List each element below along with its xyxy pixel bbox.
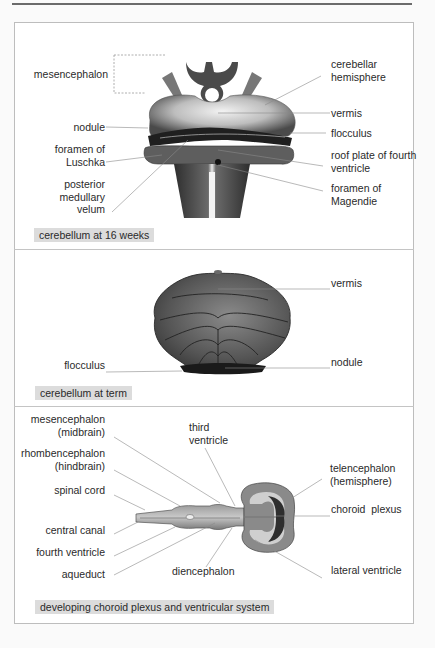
label-nodule-term: nodule — [331, 356, 363, 369]
label-flocculus-term: flocculus — [30, 359, 105, 372]
caption-choroid-plexus-ventricular-system: developing choroid plexus and ventricula… — [35, 600, 274, 614]
cerebellum-16-weeks-illustration — [114, 55, 295, 218]
label-foramen-of-luschka: foramen of Luschka — [30, 143, 105, 168]
label-roof-plate-fourth-ventricle: roof plate of fourth ventricle — [331, 149, 416, 174]
label-lateral-ventricle: lateral ventricle — [331, 564, 402, 577]
ventricular-system-illustration — [136, 483, 295, 553]
label-nodule: nodule — [30, 121, 105, 134]
caption-cerebellum-16-weeks: cerebellum at 16 weeks — [34, 228, 154, 242]
label-aqueduct: aqueduct — [10, 568, 105, 581]
label-spinal-cord: spinal cord — [10, 484, 105, 497]
label-telencephalon-hemisphere: telencephalon (hemisphere) — [330, 462, 395, 487]
label-foramen-of-magendie: foramen of Magendie — [331, 182, 381, 207]
cerebellum-at-term-illustration — [154, 270, 290, 374]
label-third-ventricle: third ventricle — [189, 421, 228, 446]
label-cerebellar-hemisphere: cerebellar hemisphere — [331, 58, 386, 83]
label-central-canal: central canal — [10, 524, 105, 537]
label-vermis: vermis — [331, 107, 362, 120]
label-rhombencephalon-hindbrain: rhombencephalon (hindbrain) — [10, 447, 105, 472]
label-flocculus: flocculus — [331, 127, 372, 140]
caption-cerebellum-at-term: cerebellum at term — [35, 386, 132, 400]
label-fourth-ventricle: fourth ventricle — [10, 546, 105, 559]
label-mesencephalon-midbrain: mesencephalon (midbrain) — [10, 413, 105, 438]
label-choroid-plexus: choroid plexus — [331, 503, 402, 516]
label-posterior-medullary-velum: posterior medullary velum — [30, 178, 105, 216]
label-mesencephalon: mesencephalon — [30, 68, 108, 81]
label-vermis-term: vermis — [331, 277, 362, 290]
label-diencephalon: diencephalon — [172, 565, 234, 578]
